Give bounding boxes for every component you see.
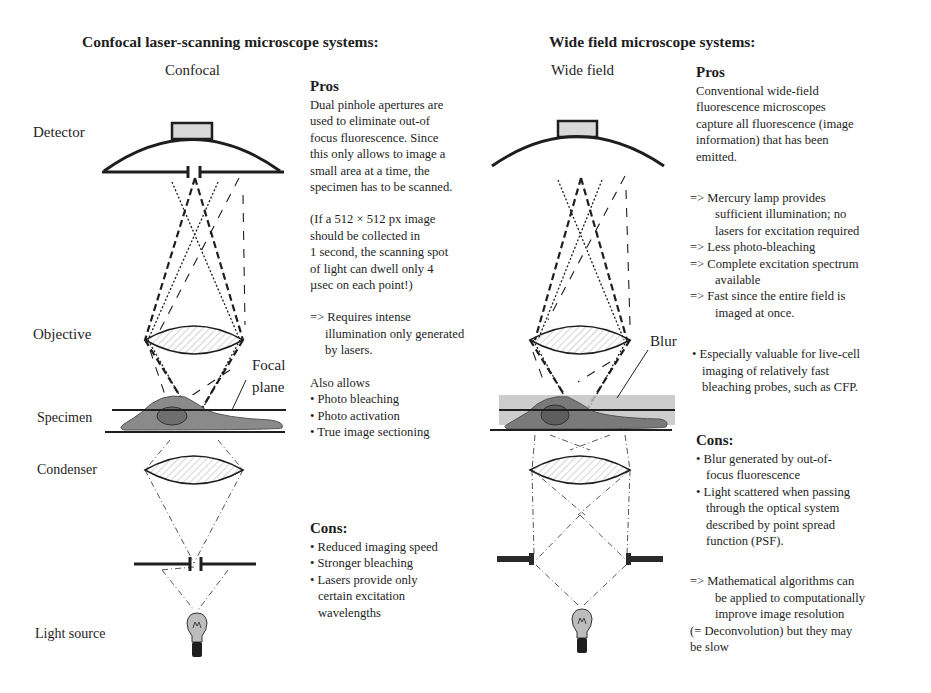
confocal-light-bulb-icon <box>187 613 207 657</box>
widefield-objective-lens <box>530 326 630 354</box>
confocal-pros-paragraph: Dual pinhole apertures are used to elimi… <box>310 97 500 195</box>
widefield-nucleus <box>541 405 569 425</box>
label-detector: Detector <box>33 124 85 141</box>
widefield-light-bulb-icon <box>572 609 592 653</box>
widefield-diagram-title: Wide field <box>551 62 614 79</box>
confocal-objective-lens <box>145 326 243 354</box>
widefield-heading: Wide field microscope systems: <box>549 33 756 51</box>
confocal-pros-example: (If a 512 × 512 px image should be colle… <box>310 211 500 293</box>
widefield-detector-dome <box>492 137 664 167</box>
confocal-pros-title: Pros <box>310 78 500 95</box>
confocal-cons-title: Cons: <box>310 520 500 537</box>
confocal-detector-dome <box>104 140 280 172</box>
confocal-heading: Confocal laser-scanning microscope syste… <box>82 33 379 51</box>
label-specimen: Specimen <box>37 410 92 426</box>
widefield-pros-title: Pros <box>696 64 926 81</box>
confocal-also-allows: Also allows • Photo bleaching • Photo ac… <box>310 375 500 441</box>
label-focal-plane: Focal plane <box>252 354 285 398</box>
label-objective: Objective <box>33 326 91 343</box>
widefield-detector-icon <box>558 121 597 137</box>
confocal-specimen-cell <box>121 396 283 430</box>
label-blur: Blur <box>650 333 677 350</box>
confocal-detector-icon <box>172 123 212 139</box>
confocal-cons-section: Cons: • Reduced imaging speed • Stronger… <box>310 520 500 621</box>
widefield-pros-bullet: • Especially valuable for live-cell imag… <box>692 346 926 395</box>
widefield-cons-section: Cons: • Blur generated by out-of- focus … <box>696 432 926 655</box>
label-condenser: Condenser <box>37 462 97 478</box>
confocal-condenser-lens <box>145 456 243 484</box>
widefield-condenser-lens <box>530 456 630 484</box>
widefield-conclusion: => Mathematical algorithms can be applie… <box>690 573 926 655</box>
confocal-diagram-title: Confocal <box>165 62 220 79</box>
widefield-cons-title: Cons: <box>696 432 926 449</box>
confocal-pros-section: Pros Dual pinhole apertures are used to … <box>310 78 500 440</box>
confocal-pros-implication: => Requires intense illumination only ge… <box>310 309 500 358</box>
label-light-source: Light source <box>35 626 105 642</box>
widefield-pros-section: Pros Conventional wide-field fluorescenc… <box>696 64 926 396</box>
widefield-pros-arrows: => Mercury lamp provides sufficient illu… <box>690 190 926 321</box>
widefield-diagram <box>490 121 675 653</box>
